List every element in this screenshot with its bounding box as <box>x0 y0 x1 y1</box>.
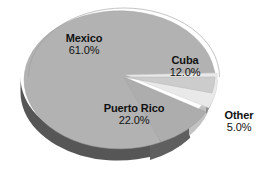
pie-chart-graphic <box>0 0 270 173</box>
pie-chart: Mexico 61.0% Cuba 12.0% Puerto Rico 22.0… <box>0 0 270 173</box>
pie-top-faces <box>24 11 217 149</box>
